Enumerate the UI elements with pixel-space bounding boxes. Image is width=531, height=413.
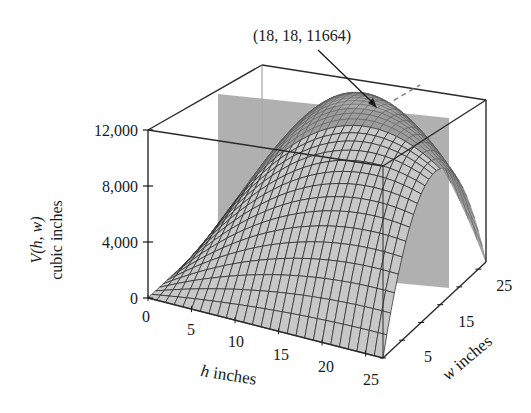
z-tick-label: 12,000 bbox=[94, 122, 138, 139]
w-tick-label: 15 bbox=[458, 313, 474, 330]
peak-dashed-line bbox=[386, 85, 420, 105]
svg-text:cubic inches: cubic inches bbox=[48, 200, 65, 280]
h-tick-label: 5 bbox=[187, 321, 195, 338]
z-axis-label: V(h, w) cubic inches bbox=[28, 200, 65, 280]
svg-text:V(h, w): V(h, w) bbox=[28, 216, 46, 263]
h-tick-label: 0 bbox=[142, 308, 150, 325]
surface-plot: (18, 18, 11664) 04,0008,00012,000 V(h, w… bbox=[0, 0, 531, 413]
z-axis: 04,0008,00012,000 bbox=[94, 122, 153, 307]
annotation-label: (18, 18, 11664) bbox=[253, 27, 351, 45]
h-tick-label: 25 bbox=[363, 371, 379, 388]
z-tick-label: 8,000 bbox=[102, 178, 138, 195]
h-tick-label: 20 bbox=[318, 358, 334, 375]
w-axis-label: w inches bbox=[438, 332, 495, 384]
z-tick-label: 4,000 bbox=[102, 234, 138, 251]
h-tick-label: 15 bbox=[273, 346, 289, 363]
h-tick-label: 10 bbox=[228, 333, 244, 350]
h-axis-label: h inches bbox=[199, 361, 257, 389]
z-tick-label: 0 bbox=[130, 290, 138, 307]
w-tick-label: 25 bbox=[496, 277, 512, 294]
w-tick-label: 5 bbox=[424, 348, 432, 365]
